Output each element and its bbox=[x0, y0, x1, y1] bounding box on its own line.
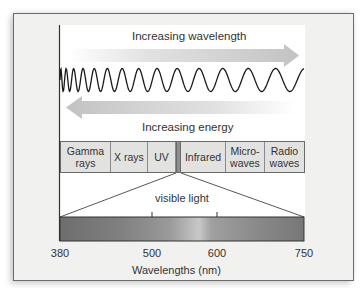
band-label-line1: Radio bbox=[270, 145, 300, 157]
band-label-line1: Gamma bbox=[67, 145, 104, 157]
energy-arrow bbox=[66, 96, 296, 119]
visible-spectrum-bar bbox=[60, 217, 304, 241]
band-uv: UV bbox=[148, 142, 176, 172]
band-x-rays: X rays bbox=[111, 142, 148, 172]
band-label-line1: UV bbox=[154, 151, 169, 163]
em-wave bbox=[60, 69, 304, 92]
tick-label-750: 750 bbox=[295, 247, 313, 259]
em-band-row: GammaraysX raysUVInfraredMicro-wavesRadi… bbox=[60, 141, 305, 173]
visible-light-label: visible light bbox=[155, 192, 209, 204]
band-label-line2: rays bbox=[67, 157, 104, 169]
wavelength-arrow bbox=[68, 44, 299, 67]
band-label-line1: Infrared bbox=[185, 151, 221, 163]
band-label-line2: waves bbox=[270, 157, 300, 169]
wavelength-arrow-label: Increasing wavelength bbox=[132, 30, 246, 42]
band-label-line2: waves bbox=[230, 157, 260, 169]
tick-label-500: 500 bbox=[143, 247, 161, 259]
energy-arrow-label: Increasing energy bbox=[142, 121, 233, 133]
band-gamma-rays: Gammarays bbox=[60, 142, 111, 172]
band-infrared: Infrared bbox=[181, 142, 226, 172]
band-radio-waves: Radiowaves bbox=[265, 142, 305, 172]
tick-label-380: 380 bbox=[51, 247, 69, 259]
axis-label: Wavelengths (nm) bbox=[132, 264, 221, 276]
tick-label-600: 600 bbox=[208, 247, 226, 259]
band-label-line1: X rays bbox=[114, 151, 144, 163]
band-label-line1: Micro- bbox=[230, 145, 260, 157]
band-microwaves: Micro-waves bbox=[226, 142, 265, 172]
